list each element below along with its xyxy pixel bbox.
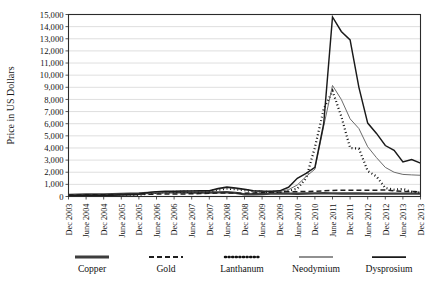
y-tick-label: 8,000 xyxy=(44,95,63,105)
y-tick-label: 3,000 xyxy=(44,155,63,165)
series-line-neodymium xyxy=(69,85,421,195)
y-tick-label: 2,000 xyxy=(44,167,63,177)
y-tick-label: 4,000 xyxy=(44,143,63,153)
y-tick-label: 6,000 xyxy=(44,119,63,129)
x-tick-label: Dec 2004 xyxy=(100,203,109,236)
x-tick-label: Dec 2003 xyxy=(65,204,74,236)
plot-frame xyxy=(69,15,421,197)
x-tick-label: Dec 2007 xyxy=(206,204,215,236)
legend-label-lanthanum: Lanthanum xyxy=(220,263,264,274)
y-axis-ticks: 01,0002,0003,0004,0005,0006,0007,0008,00… xyxy=(40,10,69,202)
x-tick-label: June 2005 xyxy=(118,204,127,238)
x-tick-label: June 2004 xyxy=(82,203,91,238)
y-tick-label: 13,000 xyxy=(40,34,64,44)
x-tick-label: Dec 2006 xyxy=(170,204,179,236)
x-tick-label: Dec 2009 xyxy=(276,204,285,236)
x-tick-label: Dec 2011 xyxy=(346,204,355,236)
y-tick-label: 11,000 xyxy=(40,58,63,68)
gridlines xyxy=(69,27,421,185)
y-axis-title: Price in US Dollars xyxy=(5,66,16,144)
x-tick-label: Dec 2012 xyxy=(382,204,391,236)
y-tick-label: 5,000 xyxy=(44,131,63,141)
x-tick-label: June 2013 xyxy=(399,204,408,238)
legend-label-dysprosium: Dysprosium xyxy=(366,263,413,274)
x-tick-label: Dec 2013 xyxy=(417,204,426,236)
y-tick-label: 0 xyxy=(59,192,63,202)
y-tick-label: 12,000 xyxy=(40,46,64,56)
x-tick-label: June 2007 xyxy=(188,204,197,238)
legend-label-gold: Gold xyxy=(156,263,175,274)
x-tick-label: June 2008 xyxy=(223,204,232,238)
legend-label-copper: Copper xyxy=(78,263,107,274)
x-axis-ticks: Dec 2003June 2004Dec 2004June 2005Dec 20… xyxy=(65,197,426,238)
y-tick-label: 10,000 xyxy=(40,70,64,80)
y-tick-label: 1,000 xyxy=(44,179,63,189)
x-tick-label: June 2011 xyxy=(329,204,338,238)
x-tick-label: June 2010 xyxy=(294,204,303,238)
legend-label-neodymium: Neodymium xyxy=(292,263,341,274)
y-tick-label: 15,000 xyxy=(40,10,64,20)
series-line-lanthanum xyxy=(69,91,421,196)
x-tick-label: Dec 2010 xyxy=(311,204,320,236)
y-tick-label: 7,000 xyxy=(44,107,63,117)
price-line-chart: 01,0002,0003,0004,0005,0006,0007,0008,00… xyxy=(0,0,437,285)
x-tick-label: June 2012 xyxy=(364,204,373,238)
chart-legend: CopperGoldLanthanumNeodymiumDysprosium xyxy=(75,257,413,274)
y-tick-label: 14,000 xyxy=(40,22,64,32)
y-tick-label: 9,000 xyxy=(44,82,63,92)
x-tick-label: Dec 2005 xyxy=(135,204,144,236)
x-tick-label: June 2009 xyxy=(258,204,267,238)
series-layer xyxy=(69,17,421,196)
x-tick-label: Dec 2008 xyxy=(241,204,250,236)
figure-container: 01,0002,0003,0004,0005,0006,0007,0008,00… xyxy=(0,0,437,285)
x-tick-label: June 2006 xyxy=(153,204,162,238)
